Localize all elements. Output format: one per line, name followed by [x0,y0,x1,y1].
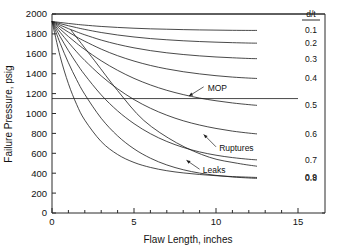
plot-frame [52,14,325,213]
legend-value-dt-0-2: 0.2 [305,38,317,48]
y-tick-label: 2000 [26,8,47,19]
y-tick-label: 200 [31,188,47,199]
legend: d/t0.10.20.30.40.50.60.70.80.9 [302,9,320,183]
x-tick-label: 5 [131,216,136,227]
y-tick-label: 1000 [26,108,47,119]
annotation-arrowhead-mop [189,93,193,96]
y-tick-label: 0 [42,207,47,218]
legend-value-dt-0-9: 0.9 [305,172,317,182]
y-axis-ticks [52,14,56,213]
legend-value-dt-0-3: 0.3 [305,54,317,64]
x-axis-tick-labels: 051015 [49,216,303,227]
annotation-label-mop: MOP [208,83,228,93]
y-tick-label: 600 [31,148,47,159]
x-tick-label: 10 [211,216,222,227]
y-axis-tick-labels: 0200400600800100012001400160018002000 [26,8,47,218]
legend-value-dt-0-6: 0.6 [305,129,317,139]
annotation-label-ruptures: Ruptures [219,143,254,153]
annotation-label-leaks: Leaks [203,165,226,175]
legend-value-dt-0-4: 0.4 [305,73,317,83]
y-tick-label: 1600 [26,48,47,59]
x-axis-title: Flaw Length, inches [144,234,233,245]
chart-canvas: 0200400600800100012001400160018002000 05… [0,0,341,247]
failure-pressure-chart: 0200400600800100012001400160018002000 05… [0,0,341,247]
legend-value-dt-0-5: 0.5 [305,100,317,110]
y-axis-title: Failure Pressure, psig [3,65,14,162]
legend-value-dt-0-1: 0.1 [305,25,317,35]
y-tick-label: 800 [31,128,47,139]
annotation-arrowhead-leaks [186,160,190,164]
legend-value-dt-0-7: 0.7 [305,155,317,165]
y-tick-label: 400 [31,168,47,179]
y-tick-label: 1400 [26,68,47,79]
x-axis-ticks [52,208,298,213]
x-tick-label: 0 [49,216,54,227]
y-tick-label: 1800 [26,28,47,39]
legend-title: d/t [306,9,316,19]
y-tick-label: 1200 [26,88,47,99]
x-tick-label: 15 [293,216,304,227]
